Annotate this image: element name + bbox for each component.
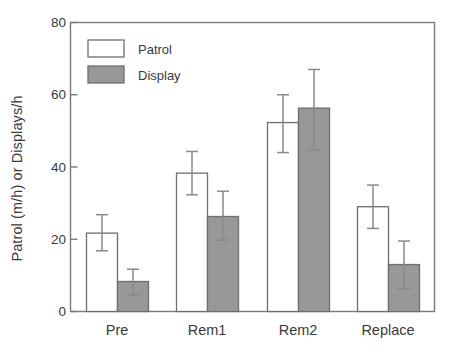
legend-swatch-display — [88, 66, 124, 83]
legend-label-patrol: Patrol — [138, 42, 172, 57]
bar-group — [87, 108, 420, 311]
legend-swatch-patrol — [88, 40, 124, 57]
y-tick-marks — [71, 23, 78, 312]
bar-chart-figure: Patrol (m/h) or Displays/h 80 60 40 20 0… — [0, 0, 457, 357]
plot-area: PatrolDisplay — [0, 0, 457, 357]
legend-label-display: Display — [138, 68, 181, 83]
legend: PatrolDisplay — [88, 40, 181, 83]
